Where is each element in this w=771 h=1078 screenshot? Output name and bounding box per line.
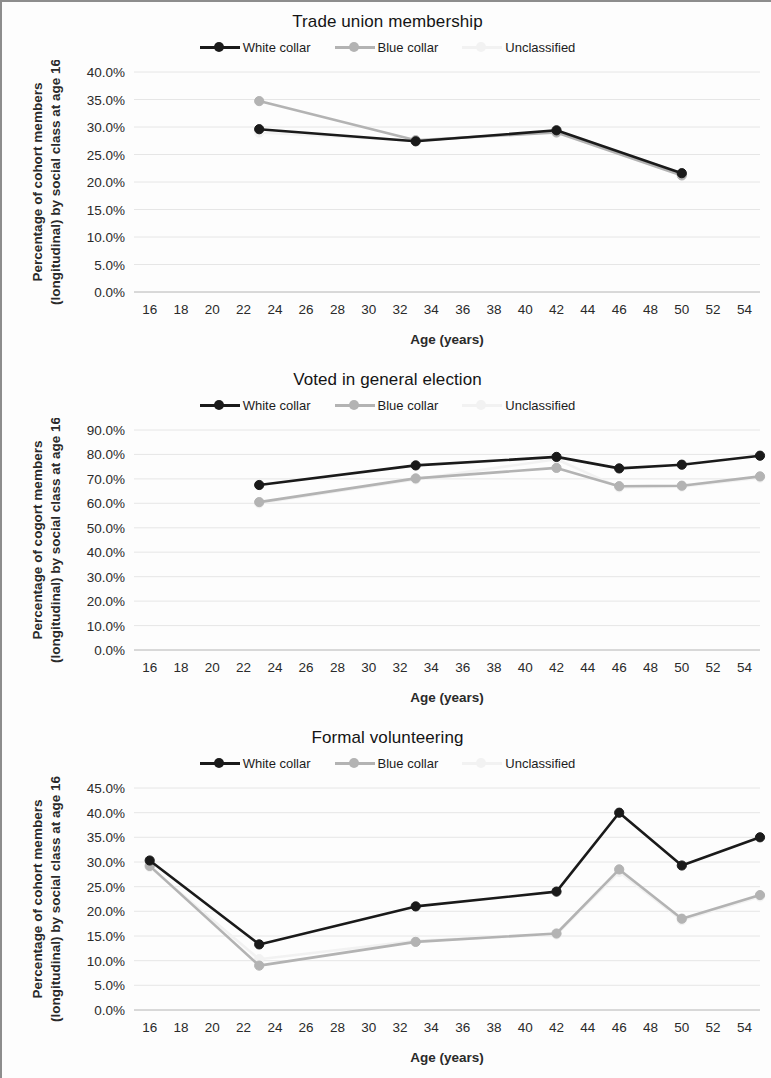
chart-title: Trade union membership <box>2 2 771 34</box>
x-tick-label: 44 <box>580 302 596 317</box>
x-tick-label: 16 <box>142 660 157 675</box>
x-tick-label: 38 <box>486 660 501 675</box>
x-tick-label: 22 <box>236 302 251 317</box>
y-tick-label: 5.0% <box>94 978 125 993</box>
plot-area: 0.0%5.0%10.0%15.0%20.0%25.0%30.0%35.0%40… <box>2 776 771 1072</box>
x-tick-label: 30 <box>361 302 376 317</box>
x-tick-label: 32 <box>393 302 408 317</box>
legend-item[interactable]: Unclassified <box>462 40 575 55</box>
chart-panel-voted-in-general-election: Voted in general electionWhite collarBlu… <box>2 360 771 718</box>
data-point-marker <box>411 937 420 946</box>
legend-marker-icon <box>462 41 502 53</box>
legend-marker-icon <box>200 757 240 769</box>
legend-marker-icon <box>200 41 240 53</box>
plot-area: 0.0%10.0%20.0%30.0%40.0%50.0%60.0%70.0%8… <box>2 418 771 712</box>
x-tick-label: 44 <box>580 660 596 675</box>
x-tick-label: 24 <box>267 660 283 675</box>
legend-item-label: Unclassified <box>505 398 575 413</box>
y-tick-label: 0.0% <box>94 1003 125 1018</box>
x-tick-label: 52 <box>706 302 721 317</box>
series-group <box>255 97 687 181</box>
legend-item-label: White collar <box>243 40 311 55</box>
data-point-marker <box>255 125 264 134</box>
legend-item-label: White collar <box>243 398 311 413</box>
series-group <box>255 451 765 508</box>
x-tick-label: 42 <box>549 302 564 317</box>
legend-item[interactable]: Blue collar <box>335 40 439 55</box>
x-axis-label: Age (years) <box>410 1050 484 1065</box>
data-point-marker <box>615 865 624 874</box>
data-point-marker <box>755 451 764 460</box>
x-tick-label: 48 <box>643 660 658 675</box>
data-point-marker <box>755 833 764 842</box>
gridlines <box>134 788 760 1010</box>
x-tick-label: 20 <box>205 302 220 317</box>
x-tick-label: 26 <box>299 1020 314 1035</box>
legend-marker-icon <box>462 757 502 769</box>
y-tick-label: 15.0% <box>87 203 125 218</box>
x-axis-ticks: 1618202224262830323436384042444648505254 <box>142 660 752 675</box>
chart-panel-formal-volunteering: Formal volunteeringWhite collarBlue coll… <box>2 718 771 1078</box>
x-tick-label: 48 <box>643 1020 658 1035</box>
y-axis-label-line1: Percentage of cohort members <box>30 800 45 999</box>
y-tick-label: 35.0% <box>87 93 125 108</box>
x-tick-label: 22 <box>236 1020 251 1035</box>
legend-item[interactable]: Blue collar <box>335 398 439 413</box>
y-axis-ticks: 0.0%10.0%20.0%30.0%40.0%50.0%60.0%70.0%8… <box>87 423 125 658</box>
y-tick-label: 30.0% <box>87 120 125 135</box>
y-tick-label: 45.0% <box>87 781 125 796</box>
legend-item[interactable]: White collar <box>200 398 311 413</box>
data-point-marker <box>552 463 561 472</box>
y-tick-label: 25.0% <box>87 148 125 163</box>
y-tick-label: 20.0% <box>87 904 125 919</box>
y-tick-label: 20.0% <box>87 175 125 190</box>
data-point-marker <box>615 482 624 491</box>
data-point-marker <box>552 126 561 135</box>
legend-item-label: Blue collar <box>378 398 439 413</box>
x-tick-label: 34 <box>424 660 440 675</box>
x-tick-label: 24 <box>267 302 283 317</box>
y-tick-label: 10.0% <box>87 230 125 245</box>
x-tick-label: 22 <box>236 660 251 675</box>
x-tick-label: 30 <box>361 660 376 675</box>
x-tick-label: 46 <box>612 302 627 317</box>
legend-marker-icon <box>200 399 240 411</box>
data-point-marker <box>615 464 624 473</box>
y-tick-label: 10.0% <box>87 619 125 634</box>
y-tick-label: 90.0% <box>87 423 125 438</box>
x-axis-ticks: 1618202224262830323436384042444648505254 <box>142 1020 752 1035</box>
y-tick-label: 40.0% <box>87 65 125 80</box>
legend-item-label: Unclassified <box>505 40 575 55</box>
data-point-marker <box>255 480 264 489</box>
data-point-marker <box>552 887 561 896</box>
data-point-marker <box>677 914 686 923</box>
data-point-marker <box>411 137 420 146</box>
x-tick-label: 28 <box>330 660 345 675</box>
legend-item[interactable]: Unclassified <box>462 398 575 413</box>
x-tick-label: 38 <box>486 302 501 317</box>
x-tick-label: 18 <box>173 1020 188 1035</box>
legend-item[interactable]: White collar <box>200 756 311 771</box>
legend-item[interactable]: Unclassified <box>462 756 575 771</box>
x-tick-label: 28 <box>330 1020 345 1035</box>
series-line <box>150 867 760 959</box>
chart-legend: White collarBlue collarUnclassified <box>2 34 771 60</box>
y-axis-label-line1: Percentage of cohort members <box>30 83 45 282</box>
legend-item-label: Blue collar <box>378 756 439 771</box>
legend-item[interactable]: Blue collar <box>335 756 439 771</box>
data-point-marker <box>677 861 686 870</box>
x-tick-label: 24 <box>267 1020 283 1035</box>
data-point-marker <box>552 929 561 938</box>
data-point-marker <box>255 97 264 106</box>
x-tick-label: 34 <box>424 302 440 317</box>
x-tick-label: 32 <box>393 1020 408 1035</box>
series-line <box>150 813 760 945</box>
x-tick-label: 32 <box>393 660 408 675</box>
data-point-marker <box>411 461 420 470</box>
chart-title: Voted in general election <box>2 360 771 392</box>
y-axis-ticks: 0.0%5.0%10.0%15.0%20.0%25.0%30.0%35.0%40… <box>87 65 125 300</box>
x-tick-label: 16 <box>142 302 157 317</box>
x-tick-label: 48 <box>643 302 658 317</box>
x-axis-ticks: 1618202224262830323436384042444648505254 <box>142 302 752 317</box>
legend-item[interactable]: White collar <box>200 40 311 55</box>
